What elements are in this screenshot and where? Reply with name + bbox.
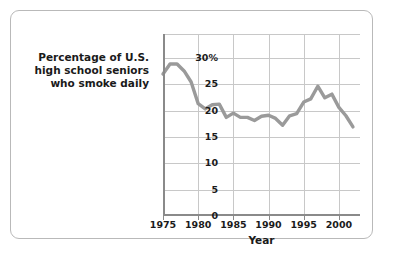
x-axis-tick-label: 1985 — [215, 219, 251, 230]
y-axis-tick-label: 20 — [205, 105, 218, 116]
x-axis-tick-label: 2000 — [321, 219, 357, 230]
x-axis-line — [163, 214, 360, 216]
caption-line-3: who smoke daily — [27, 77, 149, 90]
x-axis-tick-label: 1980 — [180, 219, 216, 230]
caption-line-2: high school seniors — [27, 64, 149, 77]
x-axis-tick-label: 1990 — [251, 219, 287, 230]
y-axis-tick-label: 5 — [211, 184, 218, 195]
caption-line-1: Percentage of U.S. — [27, 51, 149, 64]
x-axis-tick-mark — [233, 216, 234, 220]
y-axis-tick-label: 10 — [205, 157, 218, 168]
x-axis-tick-mark — [198, 216, 199, 220]
x-axis-tick-mark — [269, 216, 270, 220]
x-axis-tick-mark — [304, 216, 305, 220]
figure-panel: Percentage of U.S. high school seniors w… — [10, 10, 373, 239]
x-axis-tick-label: 1995 — [286, 219, 322, 230]
y-axis-tick-label: 15 — [205, 131, 218, 142]
x-axis-tick-label: 1975 — [145, 219, 181, 230]
plot-region — [163, 34, 360, 216]
x-axis-tick-mark — [339, 216, 340, 220]
x-axis-title: Year — [163, 234, 360, 246]
y-axis-tick-label: 30% — [195, 52, 218, 63]
x-axis-tick-mark — [163, 216, 164, 220]
chart-caption: Percentage of U.S. high school seniors w… — [27, 51, 149, 91]
y-axis-line — [163, 34, 165, 216]
data-line-series — [163, 34, 360, 216]
y-axis-tick-label: 25 — [205, 78, 218, 89]
